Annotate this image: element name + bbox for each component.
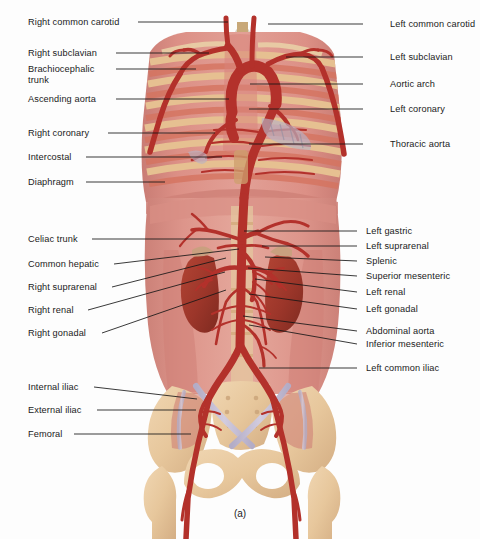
- label-aortic-arch[interactable]: Aortic arch: [390, 79, 435, 90]
- figure-caption: (a): [0, 508, 480, 519]
- label-intercostal[interactable]: Intercostal: [28, 152, 72, 163]
- label-left-suprarenal[interactable]: Left suprarenal: [366, 241, 429, 252]
- label-right-subclavian[interactable]: Right subclavian: [28, 48, 97, 59]
- label-left-coronary[interactable]: Left coronary: [390, 104, 445, 115]
- label-right-coronary[interactable]: Right coronary: [28, 128, 89, 139]
- label-right-gonadal[interactable]: Right gonadal: [28, 328, 86, 339]
- label-left-gastric[interactable]: Left gastric: [366, 226, 412, 237]
- label-brachiocephalic-trunk[interactable]: Brachiocephalic trunk: [28, 64, 94, 85]
- anatomical-figure: Right common carotidRight subclavianBrac…: [0, 0, 480, 539]
- label-diaphragm[interactable]: Diaphragm: [28, 177, 74, 188]
- label-left-renal[interactable]: Left renal: [366, 287, 405, 298]
- label-internal-iliac[interactable]: Internal iliac: [28, 382, 78, 393]
- label-right-suprarenal[interactable]: Right suprarenal: [28, 282, 97, 293]
- label-left-common-iliac[interactable]: Left common iliac: [366, 363, 439, 374]
- label-right-common-carotid[interactable]: Right common carotid: [28, 17, 119, 28]
- label-left-gonadal[interactable]: Left gonadal: [366, 304, 418, 315]
- label-inferior-mesenteric[interactable]: Inferior mesenteric: [366, 339, 444, 350]
- label-right-renal[interactable]: Right renal: [28, 305, 74, 316]
- label-external-iliac[interactable]: External iliac: [28, 405, 81, 416]
- label-superior-mesenteric[interactable]: Superior mesenteric: [366, 271, 450, 282]
- label-celiac-trunk[interactable]: Celiac trunk: [28, 234, 78, 245]
- label-left-subclavian[interactable]: Left subclavian: [390, 52, 453, 63]
- label-femoral[interactable]: Femoral: [28, 429, 62, 440]
- label-thoracic-aorta[interactable]: Thoracic aorta: [390, 139, 450, 150]
- label-common-hepatic[interactable]: Common hepatic: [28, 259, 99, 270]
- label-left-common-carotid[interactable]: Left common carotid: [390, 19, 475, 30]
- label-abdominal-aorta[interactable]: Abdominal aorta: [366, 326, 434, 337]
- label-splenic[interactable]: Splenic: [366, 256, 397, 267]
- label-ascending-aorta[interactable]: Ascending aorta: [28, 94, 96, 105]
